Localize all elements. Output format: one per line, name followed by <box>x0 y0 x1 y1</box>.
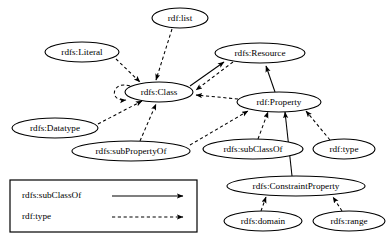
edge-range-type-constraintproperty <box>333 197 342 211</box>
legend-label-subclassof: rdfs:subClassOf <box>22 190 82 200</box>
edge-property-subclassof-resource <box>266 66 275 92</box>
node-rdf-type[interactable]: rdf:type <box>313 139 375 159</box>
edge-list-type-class <box>156 29 172 80</box>
node-rdf-list[interactable]: rdf:list <box>152 8 208 28</box>
node-rdfs-literal[interactable]: rdfs:Literal <box>45 42 119 62</box>
node-rdfs-subclassof[interactable]: rdfs:subClassOf <box>203 139 303 159</box>
rdf-schema-diagram: rdf:list rdfs:Literal rdfs:Resource rdfs… <box>0 0 389 239</box>
node-label: rdf:Property <box>257 97 302 107</box>
node-label: rdf:list <box>168 13 193 23</box>
edge-datatype-type-class <box>98 101 142 124</box>
node-label: rdfs:subClassOf <box>223 144 283 154</box>
edge-property-type-class <box>196 95 238 99</box>
node-rdfs-datatype[interactable]: rdfs:Datatype <box>12 118 98 138</box>
diagram-canvas: rdf:list rdfs:Literal rdfs:Resource rdfs… <box>0 0 389 239</box>
edge-literal-type-class <box>116 59 140 82</box>
node-label: rdfs:Datatype <box>30 123 80 133</box>
node-rdfs-subpropertyof[interactable]: rdfs:subPropertyOf <box>72 141 190 161</box>
edge-class-subclassof-resource <box>190 62 224 86</box>
node-label: rdfs:Resource <box>234 48 285 58</box>
edge-domain-type-constraintproperty <box>261 197 266 211</box>
edge-subpropertyof-type-class <box>140 104 156 141</box>
node-label: rdfs:Class <box>141 87 178 97</box>
node-label: rdfs:domain <box>241 216 286 226</box>
edge-type-type-property <box>306 111 330 140</box>
legend-box <box>10 180 197 232</box>
node-rdf-property[interactable]: rdf:Property <box>237 92 321 112</box>
legend: rdfs:subClassOf rdf:type <box>10 180 197 232</box>
node-rdfs-domain[interactable]: rdfs:domain <box>224 211 302 231</box>
node-label: rdf:type <box>329 144 358 154</box>
edge-resource-type-class <box>196 62 233 90</box>
node-label: rdfs:range <box>330 216 367 226</box>
edge-subclassof-type-property <box>258 112 268 139</box>
node-rdfs-class[interactable]: rdfs:Class <box>125 82 193 102</box>
legend-label-type: rdf:type <box>22 211 51 221</box>
node-label: rdfs:Literal <box>61 47 103 57</box>
node-rdfs-resource[interactable]: rdfs:Resource <box>215 43 305 63</box>
node-rdfs-constraintproperty[interactable]: rdfs:ConstraintProperty <box>227 176 365 196</box>
node-label: rdfs:ConstraintProperty <box>253 181 340 191</box>
node-rdfs-range[interactable]: rdfs:range <box>313 211 385 231</box>
node-label: rdfs:subPropertyOf <box>96 146 168 156</box>
